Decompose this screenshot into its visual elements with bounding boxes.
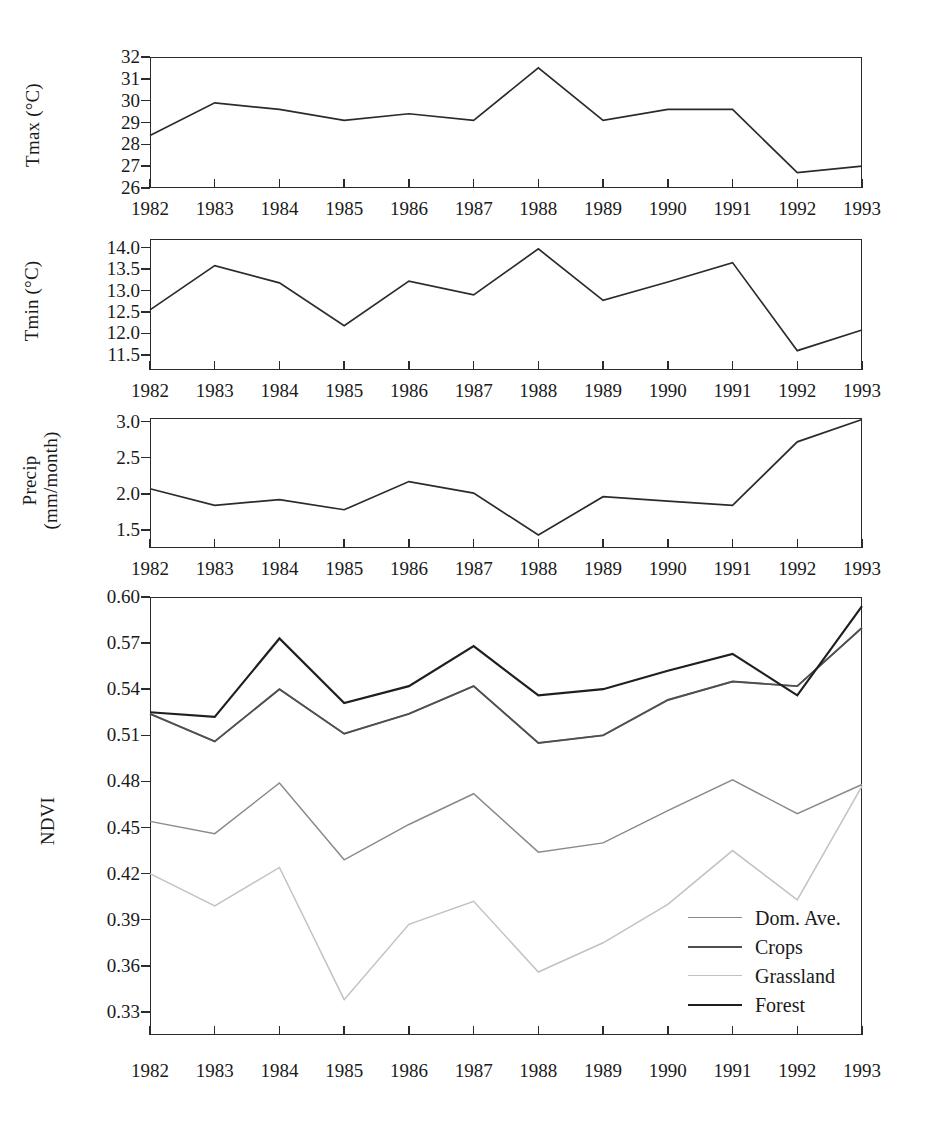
legend-swatch <box>688 946 742 948</box>
legend-item: Crops <box>688 932 841 961</box>
legend-swatch <box>688 975 742 976</box>
legend-label: Forest <box>755 995 805 1015</box>
data-line <box>150 780 862 860</box>
data-line <box>150 606 862 717</box>
legend-swatch <box>688 1004 742 1006</box>
data-line <box>150 628 862 743</box>
legend-label: Dom. Ave. <box>755 908 841 928</box>
legend-item: Forest <box>688 990 841 1019</box>
legend-ndvi: Dom. Ave.CropsGrasslandForest <box>688 903 841 1019</box>
legend-label: Crops <box>755 937 803 957</box>
data-line <box>150 628 862 743</box>
legend-swatch <box>688 917 742 918</box>
legend-item: Grassland <box>688 961 841 990</box>
figure-root: Tmax (°C) 32313029282726 198219831984198… <box>0 0 930 1142</box>
legend-label: Grassland <box>755 966 835 986</box>
legend-item: Dom. Ave. <box>688 903 841 932</box>
